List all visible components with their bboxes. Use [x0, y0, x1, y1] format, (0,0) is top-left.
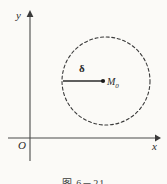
y-axis-arrowhead	[27, 10, 34, 17]
figure-container: y x O δ M0 图 6－21	[0, 0, 167, 184]
x-axis-group	[8, 134, 161, 141]
center-point-m0	[101, 79, 105, 83]
center-label-subscript: 0	[115, 82, 119, 90]
center-point-label: M0	[107, 77, 119, 90]
x-axis-label: x	[152, 141, 157, 152]
y-axis-label: y	[16, 10, 21, 21]
delta-radius-label: δ	[79, 63, 85, 74]
coordinate-diagram-svg	[0, 0, 167, 184]
origin-label: O	[18, 140, 26, 151]
figure-caption: 图 6－21	[0, 175, 167, 184]
